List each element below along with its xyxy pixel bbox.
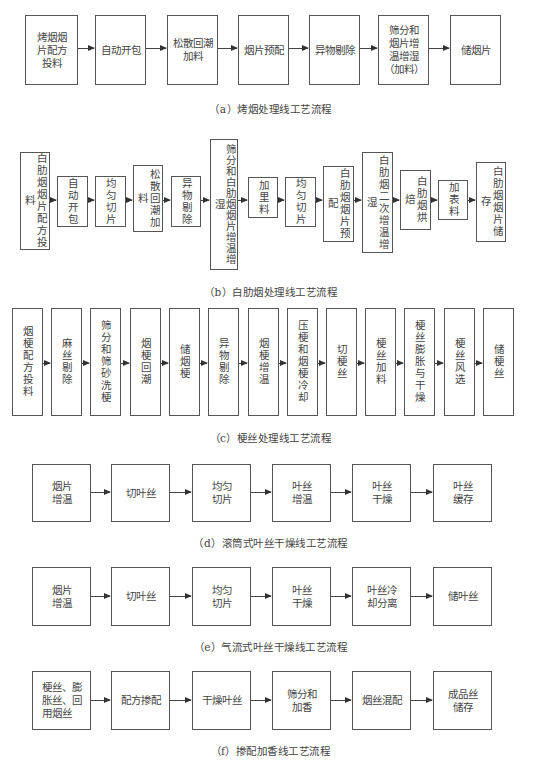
flow-d-step-6: 叶丝 缓存: [433, 464, 492, 522]
arrow-icon: [161, 363, 168, 364]
flow-a-step-5: 异物剔除: [309, 15, 360, 85]
step-label: 烤烟烟 片配方 投料: [37, 31, 67, 70]
arrow-icon: [411, 492, 432, 493]
flow-c-caption: （c）梗丝处理线工艺流程: [0, 430, 541, 445]
arrow-icon: [91, 596, 110, 597]
step-label: 麻丝剔除: [61, 338, 73, 386]
arrow-icon: [78, 48, 94, 49]
flow-f-step-6: 成品丝 储存: [433, 671, 492, 730]
flow-b-step-8: 均匀切片: [285, 177, 316, 227]
arrow-icon: [238, 200, 247, 201]
arrow-icon: [331, 492, 351, 493]
flow-b-step-2: 自动开包: [57, 176, 88, 227]
step-label: 烟片预配: [244, 44, 284, 57]
arrow-icon: [170, 596, 191, 597]
flow-c-step-10: 梗丝加料: [365, 308, 396, 416]
flow-a-caption: （a）烤烟处理线工艺流程: [0, 101, 541, 116]
arrow-icon: [88, 200, 94, 201]
arrow-icon: [393, 200, 399, 201]
step-label: 均匀切片: [295, 178, 307, 226]
step-label: 储烟片: [461, 44, 491, 57]
step-label: 叶丝 增温: [292, 480, 312, 506]
step-label: 烟梗增温: [258, 338, 270, 386]
flow-b-caption: （b）白肋烟处理线工艺流程: [0, 284, 541, 299]
flow-b-step-10: 白肋烟二次增温增湿: [362, 152, 393, 253]
step-label: 烟片 增温: [52, 480, 72, 506]
flow-b-step-1: 白肋烟烟片配方投料: [20, 152, 50, 250]
flow-d-step-3: 均匀 切片: [192, 464, 251, 522]
flow-c-step-3: 筛分和筛砂洗梗: [90, 308, 121, 416]
flow-d-step-1: 烟片 增温: [32, 464, 91, 522]
flow-c-step-8: 压梗和烟梗冷却: [287, 308, 318, 416]
step-label: 筛分和 加香: [287, 688, 317, 714]
step-label: 叶丝 干燥: [292, 584, 312, 610]
flow-a-step-1: 烤烟烟 片配方 投料: [25, 15, 78, 85]
step-label: 白肋烟烟片配方投料: [23, 153, 47, 249]
arrow-icon: [411, 700, 432, 701]
arrow-icon: [43, 363, 50, 364]
flow-a-step-4: 烟片预配: [238, 15, 289, 85]
arrow-icon: [360, 48, 377, 49]
step-label: 加里料: [257, 180, 269, 216]
step-label: 干燥叶丝: [202, 694, 242, 707]
step-label: 烟片 增温: [52, 584, 72, 610]
flow-c-step-11: 梗丝膨胀与干燥: [404, 308, 435, 416]
step-label: 均匀 切片: [212, 584, 232, 610]
flow-d-step-5: 叶丝 干燥: [352, 464, 411, 522]
arrow-icon: [239, 363, 247, 364]
step-label: 异物剔除: [180, 178, 192, 226]
arrow-icon: [278, 200, 284, 201]
flow-b-step-4: 松散回潮加料: [133, 165, 163, 232]
step-label: 自动开包: [67, 178, 79, 226]
arrow-icon: [170, 700, 191, 701]
step-label: 白肋烟烟片预配: [327, 167, 351, 241]
step-label: 筛分和 烟片增 温增湿 （加料）: [384, 24, 424, 76]
step-label: 筛分和白肋烟烟片增温增湿: [213, 140, 235, 269]
flow-c-step-9: 切梗丝: [326, 308, 357, 416]
flow-c-step-6: 异物剔除: [208, 308, 239, 416]
arrow-icon: [251, 596, 271, 597]
flow-a-step-2: 自动开包: [95, 15, 146, 85]
step-label: 均匀切片: [105, 178, 117, 226]
flow-f-step-3: 干燥叶丝: [192, 671, 251, 730]
step-label: 松散回潮加料: [136, 166, 160, 231]
arrow-icon: [475, 363, 482, 364]
arrow-icon: [200, 363, 207, 364]
flow-c-step-13: 储梗丝: [483, 308, 514, 416]
step-label: 叶丝 缓存: [453, 480, 473, 506]
arrow-icon: [82, 363, 89, 364]
step-label: 自动开包: [101, 44, 141, 57]
flow-f-caption: （f）掺配加香线工艺流程: [0, 743, 541, 758]
flow-f-step-4: 筛分和 加香: [272, 671, 331, 730]
arrow-icon: [411, 596, 432, 597]
step-label: 梗丝风选: [454, 338, 466, 386]
flow-b-step-3: 均匀切片: [95, 176, 126, 227]
flow-d-step-2: 切叶丝: [111, 464, 170, 522]
step-label: 白肋烟二次增温增湿: [366, 153, 390, 252]
arrow-icon: [91, 700, 110, 701]
step-label: 松散回潮 加料: [173, 37, 213, 63]
step-label: 异物剔除: [218, 338, 230, 386]
flow-b-step-13: 白肋烟烟片储存: [476, 162, 506, 242]
arrow-icon: [218, 48, 237, 49]
flow-b-step-12: 加表料: [438, 180, 468, 220]
step-label: 白肋烟烟片储存: [479, 163, 503, 241]
flow-b-step-6: 筛分和白肋烟烟片增温增湿: [210, 139, 238, 270]
step-label: 成品丝 储存: [448, 688, 478, 714]
step-label: 压梗和烟梗冷却: [297, 320, 309, 404]
arrow-icon: [331, 700, 351, 701]
arrow-icon: [435, 363, 443, 364]
flow-c-step-4: 烟梗回潮: [130, 308, 161, 416]
step-label: 加表料: [447, 182, 459, 218]
arrow-icon: [396, 363, 403, 364]
step-label: 储烟梗: [179, 344, 191, 380]
arrow-icon: [331, 596, 351, 597]
step-label: 叶丝冷 却分离: [367, 584, 397, 610]
flow-c-step-5: 储烟梗: [169, 308, 200, 416]
flow-e-step-5: 叶丝冷 却分离: [352, 567, 411, 626]
flow-e-step-1: 烟片 增温: [32, 567, 91, 626]
step-label: 白肋烟烘焙: [404, 171, 428, 229]
step-label: 烟丝混配: [362, 694, 402, 707]
flow-e-step-2: 切叶丝: [111, 567, 170, 626]
arrow-icon: [251, 492, 271, 493]
